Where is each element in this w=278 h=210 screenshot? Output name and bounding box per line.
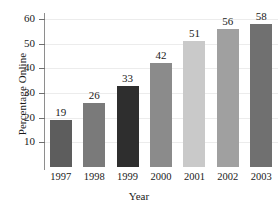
bar [250,24,272,167]
bar [117,86,139,167]
bar [150,63,172,167]
y-axis-tick-label: 40 [9,62,35,73]
bar-chart: Percentage Online 102030405060 192633425… [0,0,278,210]
bar-value-label: 26 [75,90,113,101]
clipped-chart-title [0,0,278,1]
y-axis-tick-mark [39,93,45,94]
y-axis-tick-label: 10 [9,136,35,147]
y-axis-tick-mark [39,142,45,143]
y-axis-tick-label: 20 [9,112,35,123]
bar-value-label: 19 [42,107,80,118]
bar-value-label: 51 [175,28,213,39]
bar [83,103,105,167]
x-axis-tick-label: 2003 [239,172,278,183]
y-axis-tick-label: 30 [9,87,35,98]
bar [50,120,72,167]
y-axis-tick-mark [39,68,45,69]
bar [217,29,239,167]
bar [183,41,205,167]
y-axis-tick-mark [39,19,45,20]
bar-value-label: 56 [209,16,247,27]
bar-value-label: 58 [242,11,278,22]
y-axis-tick-label: 60 [9,13,35,24]
y-axis-tick-label: 50 [9,38,35,49]
bar-value-label: 33 [109,73,147,84]
bar-value-label: 42 [142,50,180,61]
y-axis-tick-mark [39,44,45,45]
x-axis-title: Year [0,190,278,202]
y-axis-line [44,13,45,170]
